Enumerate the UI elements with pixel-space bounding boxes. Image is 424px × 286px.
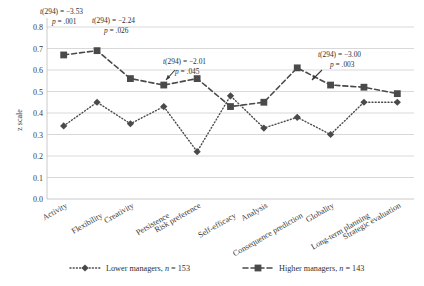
y-tick-label-0.2: 0.2 [33,152,43,161]
data-point [294,64,301,71]
annot-activity: t(294) = −3.53p = .001 [40,7,83,26]
annotation-p-value: p = .045 [174,67,200,76]
y-tick-label-0.7: 0.7 [33,45,43,54]
annotation-t-value: t(294) = −3.53 [40,7,83,16]
x-tick-label-creativity: Creativity [103,200,137,225]
x-tick-label-self-efficacy: Self-efficacy [197,210,239,239]
y-axis-title: z scale [15,109,24,131]
y-tick-label-0.8: 0.8 [33,23,43,32]
data-point [361,84,368,91]
x-tick-label-flexibility: Flexibility [70,210,105,235]
chart-container: 0.00.10.20.30.40.50.60.70.8 z scale t(29… [0,0,424,286]
y-tick-label-0.6: 0.6 [33,66,43,75]
data-point [194,75,201,82]
data-point [327,82,334,89]
data-point [127,120,134,127]
y-axis-tick-labels: 0.00.10.20.30.40.50.60.70.8 [33,23,43,204]
annotation-t-value: t(294) = −2.24 [92,16,135,25]
annotation-t-value: t(294) = −2.01 [163,57,206,66]
legend-label: Lower managers, n = 153 [106,264,190,273]
annot-long-term-planning: t(294) = −3.00p = .003 [318,50,361,69]
data-point [127,75,134,82]
legend-marker [255,265,262,272]
legend-label: Higher managers, n = 143 [279,264,364,273]
annot-flexibility: t(294) = −2.24p = .026 [92,16,135,35]
y-tick-label-0.4: 0.4 [33,109,43,118]
data-point [260,99,267,106]
y-tick-label-0.3: 0.3 [33,131,43,140]
y-tick-label-0.0: 0.0 [33,195,43,204]
data-point [227,103,234,110]
data-point [294,114,301,121]
data-point [394,90,401,97]
y-axis-title-text: z scale [15,109,24,131]
data-point [93,99,100,106]
data-point [94,47,101,54]
x-tick-label-globality: Globality [304,200,336,224]
legend-marker [81,264,88,271]
data-point [160,82,167,89]
series-lower-managers [60,92,401,155]
chart-legend: Lower managers, n = 153Higher managers, … [70,264,364,273]
data-point [60,52,67,59]
x-tick-label-analysis: Analysis [240,201,269,223]
annotation-p-value: p = .003 [329,60,355,69]
annotations-layer: t(294) = −3.53p = .001t(294) = −2.24p = … [40,7,361,80]
annotation-p-value: p = .001 [51,17,77,26]
annot-self-efficacy: t(294) = −2.01p = .045 [163,57,206,76]
y-tick-label-0.1: 0.1 [33,174,43,183]
x-axis-category-labels: ActivityFlexibilityCreativityPersistence… [41,200,402,258]
x-tick-label-activity: Activity [41,200,70,222]
annotation-t-value: t(294) = −3.00 [318,50,361,59]
data-point [394,99,401,106]
y-tick-label-0.5: 0.5 [33,88,43,97]
annotation-p-value: p = .026 [103,26,129,35]
z-scale-line-chart: 0.00.10.20.30.40.50.60.70.8 z scale t(29… [0,0,424,286]
legend-item-lower-managers[interactable]: Lower managers, n = 153 [70,264,190,273]
legend-item-higher-managers[interactable]: Higher managers, n = 143 [243,264,364,273]
